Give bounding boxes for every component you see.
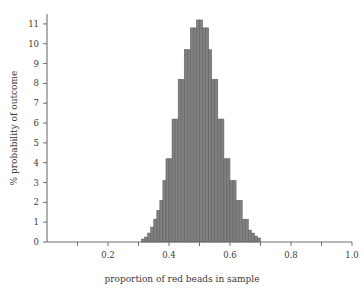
histogram-bar xyxy=(209,50,212,242)
histogram-bar xyxy=(215,79,218,242)
y-tick-label: 2 xyxy=(34,197,39,207)
histogram-bar xyxy=(257,238,260,242)
x-tick-label: 0.6 xyxy=(223,250,237,260)
histogram-bar xyxy=(193,28,196,242)
histogram-bars xyxy=(142,20,261,242)
histogram-bar xyxy=(181,79,184,242)
chart-canvas: 0.20.40.60.81.0 01234567891011 proportio… xyxy=(0,0,364,293)
x-axis-ticks: 0.20.40.60.81.0 xyxy=(78,242,359,260)
y-tick-label: 11 xyxy=(28,19,39,29)
histogram-bar xyxy=(206,28,209,242)
histogram-bar xyxy=(245,219,248,242)
y-tick-label: 8 xyxy=(34,78,39,88)
x-tick-label: 1.0 xyxy=(345,250,359,260)
histogram-figure: 0.20.40.60.81.0 01234567891011 proportio… xyxy=(0,0,364,293)
histogram-bar xyxy=(196,20,199,242)
histogram-bar xyxy=(163,181,166,242)
y-axis-title: % probability of outcome xyxy=(9,71,19,186)
histogram-bar xyxy=(148,233,151,242)
histogram-bar xyxy=(212,79,215,242)
histogram-bar xyxy=(187,50,190,242)
y-tick-label: 0 xyxy=(34,237,39,247)
histogram-bar xyxy=(203,28,206,242)
y-tick-label: 4 xyxy=(34,158,39,168)
histogram-bar xyxy=(248,230,251,242)
histogram-bar xyxy=(242,219,245,242)
histogram-bar xyxy=(175,119,178,242)
histogram-bar xyxy=(233,181,236,242)
histogram-bar xyxy=(224,159,227,242)
histogram-bar xyxy=(184,50,187,242)
histogram-bar xyxy=(145,237,148,242)
histogram-bar xyxy=(230,181,233,242)
y-axis-ticks: 01234567891011 xyxy=(28,19,47,247)
x-tick-label: 0.4 xyxy=(162,250,176,260)
histogram-bar xyxy=(236,200,239,242)
histogram-bar xyxy=(218,119,221,242)
histogram-bar xyxy=(157,210,160,242)
histogram-bar xyxy=(239,200,242,242)
histogram-bar xyxy=(251,233,254,242)
histogram-bar xyxy=(172,119,175,242)
histogram-bar xyxy=(221,119,224,242)
histogram-bar xyxy=(166,159,169,242)
y-tick-label: 10 xyxy=(28,39,39,49)
histogram-bar xyxy=(254,236,257,242)
x-tick-label: 0.8 xyxy=(284,250,298,260)
x-axis-title: proportion of red beads in sample xyxy=(104,274,259,284)
histogram-bar xyxy=(200,20,203,242)
histogram-bar xyxy=(190,28,193,242)
y-tick-label: 6 xyxy=(34,118,39,128)
y-tick-label: 5 xyxy=(34,138,39,148)
histogram-bar xyxy=(169,159,172,242)
y-tick-label: 7 xyxy=(34,98,39,108)
y-tick-label: 3 xyxy=(34,178,39,188)
histogram-bar xyxy=(160,200,163,242)
x-tick-label: 0.2 xyxy=(101,250,115,260)
histogram-bar xyxy=(151,227,154,242)
y-tick-label: 1 xyxy=(34,217,39,227)
histogram-bar xyxy=(178,79,181,242)
histogram-bar xyxy=(227,159,230,242)
y-tick-label: 9 xyxy=(34,59,39,69)
histogram-bar xyxy=(154,219,157,242)
